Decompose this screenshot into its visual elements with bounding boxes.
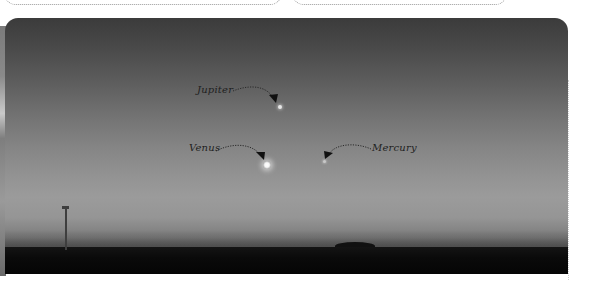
mercury-arrow-icon [329,145,371,154]
radio-mast [65,208,67,250]
mercury-label: Mercury [372,142,417,153]
venus-arrowhead-icon [256,152,265,160]
mercury-dot [323,160,326,163]
right-divider [568,80,570,280]
horizon-haze [5,230,568,248]
venus-label: Venus [189,142,220,153]
top-left-panel [5,0,281,5]
venus-dot [263,161,271,169]
jupiter-arrowhead-icon [269,94,278,103]
mercury-arrowhead-icon [324,151,333,159]
jupiter-label: Jupiter [197,84,233,95]
venus-arrow-icon [216,145,260,155]
top-right-panel [293,0,506,5]
jupiter-arrow-icon [233,87,273,98]
twilight-sky-photo: Jupiter Venus Mercury [5,18,568,274]
ground-silhouette [5,247,568,274]
jupiter-dot [278,105,282,109]
